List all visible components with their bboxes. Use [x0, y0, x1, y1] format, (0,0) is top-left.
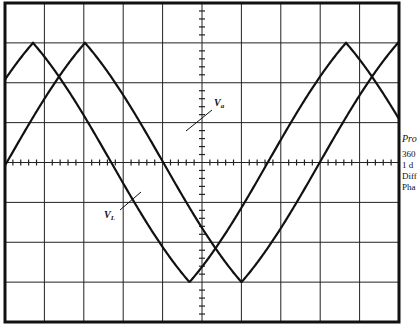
side-caption-line-3: Diff: [402, 171, 417, 182]
oscilloscope-display: Va VL: [0, 0, 419, 325]
label-va: Va: [186, 97, 225, 131]
side-caption-line-1: 360: [402, 149, 416, 160]
side-caption-line-2: 1 d: [402, 160, 413, 171]
svg-text:Va: Va: [214, 97, 225, 110]
side-caption-title: Pro: [402, 133, 417, 144]
label-vl: VL: [104, 192, 141, 222]
side-caption-line-4: Pha: [402, 182, 416, 193]
va-leader-line: [186, 110, 212, 131]
svg-text:VL: VL: [104, 209, 115, 222]
